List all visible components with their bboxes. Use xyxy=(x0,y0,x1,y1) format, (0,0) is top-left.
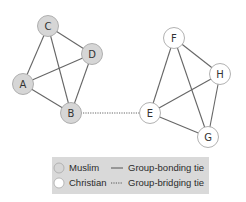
node-label: C xyxy=(45,21,52,32)
node-label: F xyxy=(171,33,177,44)
node-G: G xyxy=(198,127,219,148)
node-label: H xyxy=(216,69,224,80)
nodes-layer: ABCDEFGH xyxy=(13,16,231,148)
node-label: G xyxy=(204,132,212,143)
legend: Muslim Christian Group-bonding tie Group… xyxy=(52,157,209,194)
node-label: E xyxy=(147,108,153,119)
legend-bridging-label: Group-bridging tie xyxy=(128,177,204,189)
node-A: A xyxy=(13,74,34,95)
muslim-node-swatch-icon xyxy=(54,163,64,173)
node-H: H xyxy=(210,64,231,85)
node-F: F xyxy=(164,28,185,49)
christian-node-swatch-icon xyxy=(54,178,64,188)
node-E: E xyxy=(140,103,161,124)
bonding-tie-A-D xyxy=(23,54,92,84)
node-label: D xyxy=(88,49,96,60)
node-label: B xyxy=(68,108,75,119)
node-label: A xyxy=(20,79,27,90)
legend-bonding-label: Group-bonding tie xyxy=(128,162,204,174)
edges-layer xyxy=(23,26,220,137)
node-B: B xyxy=(61,103,82,124)
bonding-tie-F-G xyxy=(174,38,208,137)
legend-christian-label: Christian xyxy=(69,177,107,189)
node-C: C xyxy=(38,16,59,37)
node-D: D xyxy=(82,44,103,65)
legend-muslim-label: Muslim xyxy=(69,162,99,174)
